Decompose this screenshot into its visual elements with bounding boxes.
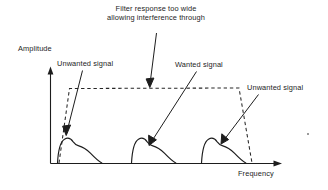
scan-artifact-speck	[307, 133, 309, 135]
annotation-label-wanted-signal: Wanted signal	[175, 61, 223, 70]
signal-hump-unwanted-left	[58, 138, 102, 163]
leader-arrows-group	[63, 33, 259, 146]
filter-response-annotation-label: Filter response too wide allowing interf…	[104, 5, 208, 22]
y-axis-arrowhead	[48, 67, 54, 75]
filter-response-figure	[0, 0, 328, 190]
axes-group	[48, 67, 282, 167]
x-axis-arrowhead	[274, 160, 283, 166]
leader-arrow-unwanted-right	[221, 95, 259, 145]
filter-response-curve	[59, 88, 252, 163]
leader-arrow-filter-response	[146, 33, 156, 88]
leader-arrow-unwanted-left	[63, 71, 83, 136]
leader-arrow-wanted	[149, 72, 197, 146]
y-axis-label: Amplitude	[18, 45, 52, 54]
x-axis-label: Frequency	[238, 170, 274, 179]
filter-response-trapezoid-path	[59, 88, 252, 163]
diagram-canvas: Filter response too wide allowing interf…	[0, 0, 328, 190]
annotation-label-unwanted-signal-left: Unwanted signal	[57, 60, 113, 69]
annotation-label-unwanted-signal-right: Unwanted signal	[247, 84, 303, 93]
